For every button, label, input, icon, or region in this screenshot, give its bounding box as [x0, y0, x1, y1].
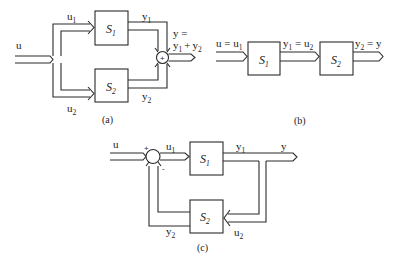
- label-u-eq-u1: u = u1: [216, 37, 243, 52]
- caption-a: (a): [102, 114, 113, 126]
- input-arrow-c: [110, 153, 146, 160]
- caption-b: (b): [294, 115, 306, 127]
- plus-sign: +: [144, 144, 149, 153]
- block-diagrams: u u1 u2 S1 S2 y1 y2 + y = y1+y2 (a) u = …: [0, 0, 401, 268]
- label-output-sum: y1+y2: [173, 39, 202, 54]
- label-u1: u1: [67, 10, 77, 25]
- branch-outer: [53, 24, 90, 97]
- diagram-b-series: u = u1 S1 S2 y1 = u2 y2 = y (b): [216, 37, 383, 127]
- arrowhead-s2-c: [224, 210, 230, 226]
- caption-c: (c): [197, 242, 208, 254]
- label-u-c: u: [113, 138, 119, 150]
- branch-inner: [61, 31, 90, 90]
- diagram-c-feedback: u + - u1 S1 S2 y1 y u2 y2 (c): [110, 138, 297, 254]
- label-y-c: y: [281, 140, 287, 152]
- label-y2-eq-y: y2 = y: [355, 37, 382, 52]
- label-y2: y2: [142, 90, 152, 105]
- feedback-u2-path: [228, 161, 266, 222]
- sum-plus-sign: +: [160, 54, 165, 63]
- label-u2: u2: [67, 102, 77, 117]
- label-y1-eq-u2: y1 = u2: [283, 37, 313, 52]
- minus-sign: -: [162, 164, 165, 173]
- output-arrow-c: [223, 153, 297, 161]
- diagram-a-parallel: u u1 u2 S1 S2 y1 y2 + y = y1+y2 (a): [15, 10, 202, 126]
- output-arrow-b: [353, 52, 383, 61]
- arrowhead-s1: [88, 21, 94, 34]
- input-arrow-b: [216, 52, 247, 61]
- feedback-y2-path: [149, 166, 190, 226]
- arrowhead-s2: [88, 87, 94, 100]
- mid-arrow-b: [280, 52, 319, 61]
- y1-path: [128, 22, 167, 51]
- input-arrow-u: [15, 56, 53, 63]
- label-y2-c: y2: [166, 225, 176, 240]
- label-output-y-eq: y =: [173, 27, 187, 39]
- label-y1: y1: [142, 10, 152, 25]
- output-arrow-y: [169, 54, 196, 61]
- label-u2-c: u2: [234, 226, 244, 241]
- label-u: u: [16, 39, 22, 51]
- y2-path: [128, 64, 167, 88]
